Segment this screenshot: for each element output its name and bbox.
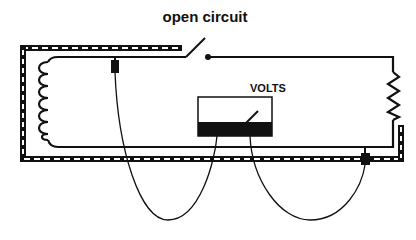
resistor [388, 72, 399, 120]
switch-contact-dot [205, 54, 211, 60]
volts-label: VOLTS [250, 82, 286, 94]
circuit-diagram: open circuit VOLTS [0, 0, 416, 240]
coil-inductor [39, 62, 48, 140]
open-switch [186, 38, 211, 60]
voltmeter: VOLTS [198, 82, 286, 136]
probe-right [361, 153, 370, 165]
meter-base [198, 122, 272, 136]
title-label: open circuit [162, 8, 247, 25]
probe-left [111, 60, 119, 73]
